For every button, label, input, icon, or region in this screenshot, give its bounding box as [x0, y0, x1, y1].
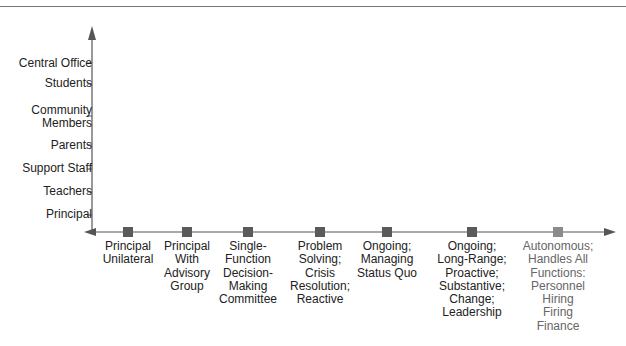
- y-label-principal: Principal: [46, 208, 92, 221]
- y-label-community-members: Community Members: [31, 104, 92, 130]
- marker-7: [553, 227, 563, 237]
- y-label-support-staff: Support Staff: [22, 162, 92, 175]
- marker-6: [467, 227, 477, 237]
- y-label-students: Students: [45, 77, 92, 90]
- x-label-line: Autonomous;: [513, 240, 603, 253]
- x-label-line: Hiring: [513, 293, 603, 306]
- x-label-line: Ongoing;: [427, 240, 517, 253]
- x-label-line: Finance: [513, 320, 603, 333]
- marker-5: [382, 227, 392, 237]
- y-label-teachers: Teachers: [43, 185, 92, 198]
- marker-4: [315, 227, 325, 237]
- x-label-line: Reactive: [275, 293, 365, 306]
- x-label-line: Firing: [513, 306, 603, 319]
- x-label-line: Personnel: [513, 280, 603, 293]
- y-axis-arrow-icon: [88, 26, 96, 40]
- x-label-line: Long-Range;: [427, 253, 517, 266]
- y-label-parents: Parents: [51, 139, 92, 152]
- x-label-line: Functions:: [513, 267, 603, 280]
- x-label-line: Change;: [427, 293, 517, 306]
- y-label-community-line2: Members: [31, 117, 92, 130]
- x-label-ongoing-leadership: Ongoing; Long-Range; Proactive; Substant…: [427, 240, 517, 320]
- x-label-line: Leadership: [427, 306, 517, 319]
- x-label-autonomous: Autonomous; Handles All Functions: Perso…: [513, 240, 603, 333]
- x-axis-left-arrow-icon: [84, 228, 96, 236]
- x-axis-right-arrow-icon: [604, 228, 616, 236]
- x-label-ongoing-status-quo: Ongoing; Managing Status Quo: [342, 240, 432, 280]
- x-label-line: Resolution;: [275, 280, 365, 293]
- x-label-line: Proactive;: [427, 267, 517, 280]
- x-label-line: Ongoing;: [342, 240, 432, 253]
- y-label-central-office: Central Office: [19, 57, 92, 70]
- marker-1: [123, 227, 133, 237]
- x-label-line: Status Quo: [342, 267, 432, 280]
- marker-3: [243, 227, 253, 237]
- marker-2: [182, 227, 192, 237]
- x-label-line: Managing: [342, 253, 432, 266]
- x-label-line: Handles All: [513, 253, 603, 266]
- x-label-line: Substantive;: [427, 280, 517, 293]
